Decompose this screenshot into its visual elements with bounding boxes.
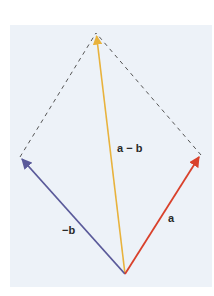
vector-a-arrow <box>125 157 199 274</box>
vector-a-minus-b-arrow <box>97 36 125 274</box>
dashed-edge-right <box>96 33 201 155</box>
label-neg-b: −b <box>62 225 75 236</box>
label-a: a <box>168 213 174 224</box>
vector-diagram <box>0 0 214 296</box>
label-a-minus-b: a − b <box>117 143 142 154</box>
vector-neg-b-arrow <box>22 159 125 274</box>
dashed-edge-left <box>20 33 96 157</box>
